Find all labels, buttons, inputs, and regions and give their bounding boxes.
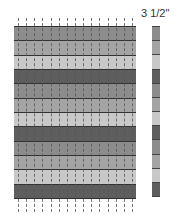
stitch-line: [67, 18, 68, 212]
stitch-line: [34, 18, 35, 212]
stitch-lines: [14, 18, 136, 212]
strip-segment: [152, 40, 160, 55]
strip-segment: [152, 54, 160, 69]
stitch-line: [75, 18, 76, 212]
strip-segment: [152, 139, 160, 154]
strip-segment: [152, 182, 160, 197]
stitch-line: [26, 18, 27, 212]
stitch-line: [51, 18, 52, 212]
strip-width-label: 3 1/2": [141, 7, 169, 19]
stitch-line: [83, 18, 84, 212]
side-strip-segment: [152, 26, 160, 196]
strip-segment: [152, 69, 160, 84]
stitch-line: [116, 18, 117, 212]
strip-segment: [152, 154, 160, 169]
strip-segment: [152, 26, 160, 41]
stitch-line: [42, 18, 43, 212]
stitch-line: [59, 18, 60, 212]
strip-segment: [152, 97, 160, 112]
strip-segment: [152, 111, 160, 126]
stitch-line: [91, 18, 92, 212]
stitch-line: [132, 18, 133, 212]
strip-segment: [152, 125, 160, 140]
strip-segment: [152, 83, 160, 98]
stitch-line: [18, 18, 19, 212]
stitch-line: [99, 18, 100, 212]
stitch-line: [124, 18, 125, 212]
strip-segment: [152, 168, 160, 183]
stitch-line: [108, 18, 109, 212]
